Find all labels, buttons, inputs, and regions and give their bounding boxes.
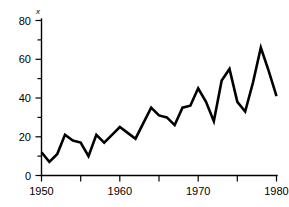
y-tick-label-80: 80 <box>19 15 31 27</box>
x-axis-tick-labels: 1950 1960 1970 1980 <box>29 185 288 197</box>
y-tick-label-60: 60 <box>19 53 31 65</box>
y-tick-label-0: 0 <box>25 170 31 182</box>
x-tick-label-1960: 1960 <box>108 185 132 197</box>
x-tick-label-1970: 1970 <box>186 185 210 197</box>
x-tick-label-1950: 1950 <box>29 185 53 197</box>
y-axis-label: x <box>35 7 41 16</box>
chart-axes <box>42 19 278 176</box>
data-series-line <box>42 48 277 162</box>
x-axis-ticks <box>42 176 277 182</box>
y-tick-label-20: 20 <box>19 131 31 143</box>
x-tick-label-1980: 1980 <box>264 185 288 197</box>
chart-figure: 0 20 40 60 80 1950 1960 1970 1980 x <box>0 0 289 207</box>
y-axis-ticks <box>36 21 42 176</box>
y-axis-tick-labels: 0 20 40 60 80 <box>19 15 31 182</box>
line-chart: 0 20 40 60 80 1950 1960 1970 1980 x <box>0 0 289 207</box>
y-tick-label-40: 40 <box>19 92 31 104</box>
